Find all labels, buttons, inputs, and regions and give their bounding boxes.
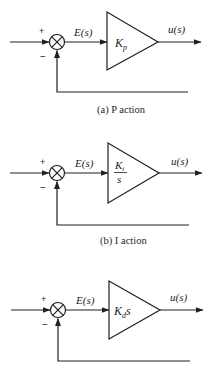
diagram-d-action: + − E(s) Kds u(s): [11, 281, 203, 361]
gain-block: [108, 143, 159, 203]
caption: (a) P action: [97, 104, 146, 116]
output-label: u(s): [170, 291, 187, 304]
error-label: E(s): [75, 294, 95, 307]
minus-sign: −: [40, 51, 46, 62]
feedback-path: [57, 51, 188, 93]
svg-text:s: s: [117, 173, 121, 185]
diagram-i-action: + − E(s) Ki s u(s) (b) I action: [10, 143, 202, 247]
control-block-diagrams: + − E(s) Kp u(s) (a) P action + − E(s) K…: [0, 0, 215, 371]
output-label: u(s): [171, 155, 188, 168]
svg-text:Ki: Ki: [114, 159, 124, 173]
feedback-path: [57, 182, 189, 226]
caption: (b) I action: [100, 235, 147, 247]
plus-sign: +: [41, 294, 46, 304]
gain-label: Ki s: [114, 159, 127, 185]
summing-junction: [51, 303, 66, 318]
error-label: E(s): [74, 157, 94, 170]
error-label: E(s): [73, 26, 93, 39]
diagram-p-action: + − E(s) Kp u(s) (a) P action: [10, 12, 201, 116]
gain-label: Kds: [113, 304, 131, 320]
minus-sign: −: [40, 182, 46, 193]
plus-sign: +: [39, 26, 44, 36]
summing-junction: [50, 166, 65, 181]
gain-label: Kp: [114, 36, 127, 52]
feedback-path: [58, 319, 190, 362]
minus-sign: −: [42, 319, 48, 330]
summing-junction: [50, 35, 65, 50]
output-label: u(s): [168, 23, 185, 36]
plus-sign: +: [40, 157, 45, 167]
